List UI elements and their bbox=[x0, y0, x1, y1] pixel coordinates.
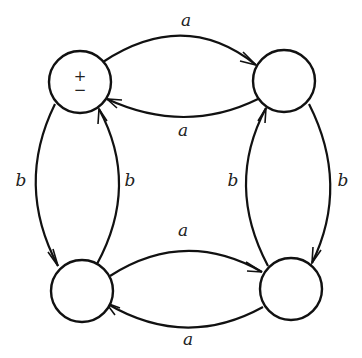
edge-top-left-to-bottom-left bbox=[36, 104, 58, 266]
state-node-bottom-left bbox=[51, 260, 113, 322]
edge-label-right-outer: b bbox=[338, 170, 349, 190]
state-node-bottom-right bbox=[260, 258, 322, 320]
state-node-top-right bbox=[253, 50, 315, 112]
edge-bottom-left-to-bottom-right bbox=[110, 251, 262, 276]
minus-sign: − bbox=[74, 81, 87, 99]
state-diagram: + − a a a a b b b b bbox=[0, 0, 362, 358]
edge-bottom-left-to-top-left bbox=[97, 109, 119, 264]
edge-bottom-right-to-top-right bbox=[246, 108, 268, 266]
edge-label-right-inner: b bbox=[228, 170, 239, 190]
edge-label-left-inner: b bbox=[125, 170, 136, 190]
edge-label-top-arc: a bbox=[181, 10, 191, 30]
edge-bottom-right-to-bottom-left bbox=[106, 303, 263, 328]
edge-label-lower-arc: a bbox=[178, 220, 188, 240]
edge-label-bottom-return: a bbox=[183, 329, 193, 349]
arrowhead-icon bbox=[246, 262, 262, 272]
edge-label-left-outer: b bbox=[16, 170, 27, 190]
edge-top-right-to-bottom-right bbox=[309, 104, 330, 263]
edge-top-left-to-top-right bbox=[103, 36, 256, 65]
edge-label-upper-return: a bbox=[178, 120, 188, 140]
edge-top-right-to-top-left bbox=[107, 99, 258, 117]
